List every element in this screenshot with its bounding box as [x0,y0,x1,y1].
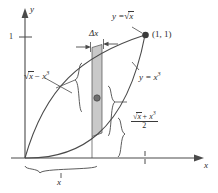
point-label-1-1: (1, 1) [152,30,172,39]
curve-sqrt-x [25,35,145,158]
x-distance-label: x [57,178,61,187]
y-tick-label-1: 1 [9,33,13,41]
midpoint-dot [94,95,100,101]
brace-x-distance [25,166,97,173]
fraction-numerator-exponent: 3 [153,110,156,116]
strip-width-label: Δx [89,29,98,38]
leader-line-sqrt-label [132,27,142,33]
diagram-svg [0,0,218,193]
fraction-denominator: 2 [131,122,158,130]
curve-label-sqrt-lhs: y = [112,11,124,21]
fraction: √x+ x3 2 [131,112,158,130]
midpoint-height-label: √x+ x3 2 [131,112,158,130]
strip-height-minus: − x [34,71,46,81]
point-1-1-dot [142,32,149,39]
x-axis-label: x [204,161,208,170]
radicand-sqrt-x: x [128,11,134,21]
y-axis-arrowhead [22,8,29,18]
x-axis-arrowhead [194,155,204,162]
curve-label-cube-base: y = x [139,72,158,82]
y-axis-label: y [30,5,34,14]
brace-midpoint-height [108,86,115,136]
fraction-numerator-plus: + x [142,112,153,121]
radical-sign: √x [124,11,134,21]
curve-label-cube-exponent: 3 [158,71,161,77]
radical-sign-frac: √x [133,112,142,121]
curve-x-cubed [25,35,145,158]
brace-lower-right [118,118,125,157]
strip-height-exponent: 3 [46,70,49,76]
radical-sign-diff: √x [24,71,34,81]
curve-label-sqrt-x: y =√x [112,11,134,21]
figure-canvas: y x 1 y =√x (1, 1) Δx √x− x3 y = x3 √x+ … [0,0,218,193]
strip-height-label: √x− x3 [24,71,49,81]
curve-label-x-cubed: y = x3 [139,73,161,82]
